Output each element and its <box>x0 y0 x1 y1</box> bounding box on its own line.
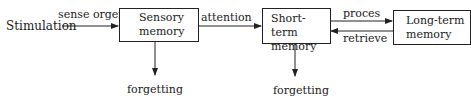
short-term-line1: Short-term <box>271 12 330 40</box>
long-term-line2: memory <box>406 28 470 42</box>
short-term-line2: memory <box>271 40 330 54</box>
sensory-line2: memory <box>139 25 198 39</box>
process-label: proces <box>343 8 380 20</box>
sensory-line1: Sensory <box>139 11 198 25</box>
stimulation-label: Stimulation <box>6 20 77 32</box>
forgetting-sensory-label: forgetting <box>127 84 183 96</box>
short-term-memory-box: Short-term memory <box>262 8 331 44</box>
sensory-memory-box: Sensory memory <box>119 8 199 42</box>
attention-label: attention <box>201 12 252 24</box>
retrieve-label: retrieve <box>343 33 387 45</box>
sense-organ-label: sense orgen <box>58 9 125 21</box>
forgetting-short-term-label: forgetting <box>273 85 329 97</box>
long-term-line1: Long-term <box>406 14 470 28</box>
long-term-memory-box: Long-term memory <box>393 10 471 45</box>
